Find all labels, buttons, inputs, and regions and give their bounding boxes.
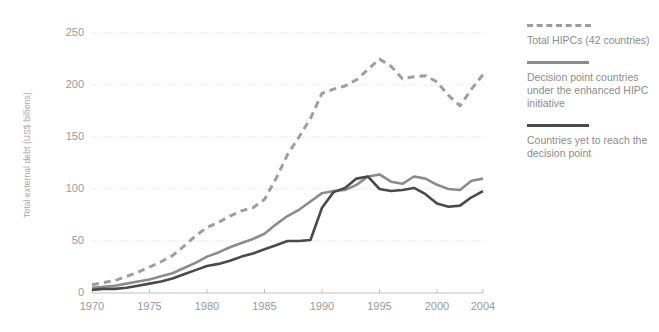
legend-label-yet-to-reach: Countries yet to reach the decision poin… (527, 134, 659, 160)
y-axis-tick-label: 100 (44, 182, 84, 194)
x-axis-tick-label: 1995 (355, 300, 405, 312)
legend-label-decision-point: Decision point countries under the enhan… (527, 71, 659, 110)
line-chart: Total external debt (US$ billions) 05010… (0, 0, 659, 332)
x-axis-tick-label: 1975 (125, 300, 175, 312)
legend-entry-yet-to-reach: Countries yet to reach the decision poin… (527, 124, 659, 160)
legend-swatch-decision-point (527, 61, 589, 64)
legend-entry-decision-point: Decision point countries under the enhan… (527, 61, 659, 110)
series-line-0 (92, 59, 483, 285)
y-axis-tick-label: 0 (44, 286, 84, 298)
y-axis-tick-label: 250 (44, 26, 84, 38)
x-axis-tick-label: 1985 (240, 300, 290, 312)
x-axis-tick-label: 1970 (67, 300, 117, 312)
x-axis-tick-label: 1980 (182, 300, 232, 312)
legend-swatch-dashed (527, 24, 591, 27)
chart-legend: Total HIPCs (42 countries) Decision poin… (527, 24, 659, 174)
legend-label-total-hipcs: Total HIPCs (42 countries) (527, 34, 659, 47)
x-axis-tick-label: 1990 (297, 300, 347, 312)
y-axis-tick-label: 50 (44, 234, 84, 246)
y-axis-tick-label: 200 (44, 78, 84, 90)
y-axis-tick-label: 150 (44, 130, 84, 142)
legend-entry-total-hipcs: Total HIPCs (42 countries) (527, 24, 659, 47)
x-axis-tick-label: 2000 (412, 300, 462, 312)
legend-swatch-yet-to-reach (527, 124, 589, 127)
x-axis-tick-label: 2004 (458, 300, 508, 312)
series-line-1 (92, 174, 483, 287)
series-line-2 (92, 177, 483, 290)
